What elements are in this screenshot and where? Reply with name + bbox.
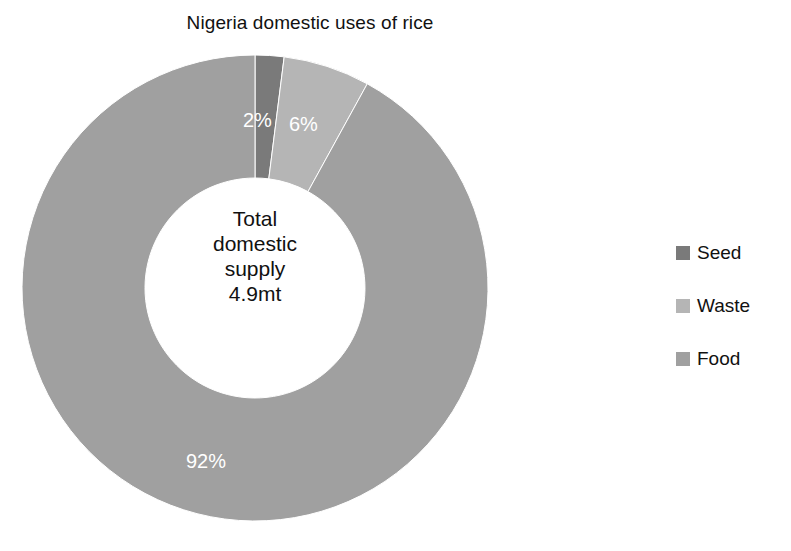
donut-slice-group	[22, 55, 488, 521]
legend-item-waste[interactable]: Waste	[676, 279, 786, 332]
legend-label-food: Food	[697, 348, 740, 370]
legend-swatch-food	[676, 352, 690, 366]
donut-chart	[0, 0, 660, 551]
legend-item-food[interactable]: Food	[676, 332, 786, 385]
donut-slice-food[interactable]	[22, 55, 488, 521]
chart-legend: Seed Waste Food	[676, 226, 786, 385]
legend-label-waste: Waste	[697, 295, 750, 317]
legend-item-seed[interactable]: Seed	[676, 226, 786, 279]
legend-label-seed: Seed	[697, 242, 741, 264]
legend-swatch-seed	[676, 246, 690, 260]
legend-swatch-waste	[676, 299, 690, 313]
chart-plot-area: 2% 6% 92% Total domestic supply 4.9mt	[0, 0, 660, 551]
